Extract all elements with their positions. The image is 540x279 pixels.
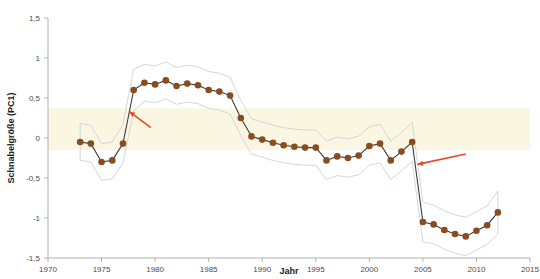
data-point — [184, 80, 191, 87]
data-point — [409, 139, 416, 146]
data-point — [355, 152, 362, 159]
chart-plot-area: -1,5-1-0,500,511,5 197019751980198519901… — [0, 0, 540, 279]
x-tick-label: 2005 — [414, 265, 432, 274]
y-tick-label: 1,5 — [29, 14, 41, 23]
y-tick-label: -0,5 — [26, 174, 40, 183]
data-point — [152, 81, 159, 88]
x-tick-label: 1975 — [93, 265, 111, 274]
x-axis-title: Jahr — [279, 266, 299, 276]
x-tick-label: 1980 — [146, 265, 164, 274]
y-axis-ticks: -1,5-1-0,500,511,5 — [26, 14, 48, 263]
y-tick-label: 1 — [36, 54, 41, 63]
y-tick-label: 0 — [36, 134, 41, 143]
data-point — [88, 140, 95, 147]
data-point — [216, 88, 223, 95]
data-point — [141, 80, 148, 87]
data-point — [398, 148, 405, 155]
data-point — [452, 231, 459, 238]
x-tick-label: 1970 — [39, 265, 57, 274]
data-point — [291, 144, 298, 151]
data-point — [120, 140, 127, 147]
data-point — [366, 143, 373, 150]
data-point — [238, 115, 245, 122]
data-point — [312, 144, 319, 151]
data-point — [163, 77, 170, 84]
y-tick-label: 0,5 — [29, 94, 41, 103]
x-tick-label: 2010 — [468, 265, 486, 274]
data-point — [248, 133, 255, 140]
x-tick-label: 1995 — [307, 265, 325, 274]
data-point — [345, 155, 352, 162]
data-point — [323, 157, 330, 164]
y-tick-label: -1 — [33, 214, 41, 223]
data-point — [98, 159, 105, 166]
data-point — [173, 83, 180, 90]
data-point — [109, 157, 116, 164]
data-point — [280, 142, 287, 149]
data-point — [495, 209, 502, 216]
data-point — [227, 92, 234, 99]
y-axis-title: Schnabelgröße (PC1) — [6, 92, 16, 183]
x-tick-label: 2000 — [360, 265, 378, 274]
data-point — [77, 139, 84, 146]
data-point — [377, 140, 384, 147]
data-point — [302, 144, 309, 151]
data-point — [420, 219, 427, 226]
data-point — [387, 157, 394, 164]
x-tick-label: 2015 — [521, 265, 539, 274]
data-point — [484, 222, 491, 229]
data-point — [462, 233, 469, 240]
data-point — [195, 82, 202, 89]
data-point — [205, 87, 212, 94]
data-point — [473, 228, 480, 235]
arrow-drop-2005 — [418, 154, 466, 164]
data-point — [430, 221, 437, 228]
y-tick-label: -1,5 — [26, 254, 40, 263]
x-tick-label: 1985 — [200, 265, 218, 274]
x-tick-label: 1990 — [253, 265, 271, 274]
data-point — [259, 136, 266, 143]
data-point — [130, 87, 137, 94]
data-point — [270, 140, 277, 147]
chart-figure: -1,5-1-0,500,511,5 197019751980198519901… — [0, 0, 540, 279]
data-point — [334, 153, 341, 160]
data-point — [441, 227, 448, 234]
